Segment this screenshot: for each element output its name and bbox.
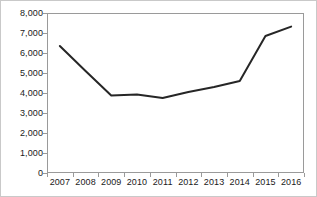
- x-axis-tick-label: 2008: [75, 177, 95, 187]
- x-axis-tick-mark: [98, 173, 99, 177]
- x-axis-tick-label: 2010: [127, 177, 147, 187]
- x-axis-tick-label: 2013: [204, 177, 224, 187]
- y-axis-tick-label: 5,000: [1, 69, 43, 78]
- data-series-layer: [47, 13, 304, 173]
- x-axis-tick-mark: [278, 173, 279, 177]
- x-axis-tick-mark: [73, 173, 74, 177]
- x-axis-tick-mark: [176, 173, 177, 177]
- y-axis-tick-label: 4,000: [1, 89, 43, 98]
- x-axis-tick-mark: [150, 173, 151, 177]
- y-axis-tick-label: 7,000: [1, 29, 43, 38]
- y-axis-tick-label: 2,000: [1, 129, 43, 138]
- x-axis-tick-label: 2012: [178, 177, 198, 187]
- x-axis-tick-label: 2016: [281, 177, 301, 187]
- x-axis-tick-mark: [124, 173, 125, 177]
- y-axis-tick-label: 6,000: [1, 49, 43, 58]
- x-axis-tick-mark: [304, 173, 305, 177]
- y-axis-tick-label: 0: [1, 169, 43, 178]
- line-chart-figure: 01,0002,0003,0004,0005,0006,0007,0008,00…: [0, 0, 317, 197]
- x-axis-tick-label: 2007: [50, 177, 70, 187]
- x-axis-tick-mark: [47, 173, 48, 177]
- series-line-path: [60, 27, 291, 98]
- x-axis-tick-label: 2014: [230, 177, 250, 187]
- x-axis-tick-labels: 2007200820092010201120122013201420152016: [47, 177, 304, 191]
- x-axis-tick-mark: [227, 173, 228, 177]
- x-axis-tick-label: 2015: [255, 177, 275, 187]
- x-axis-tick-mark: [253, 173, 254, 177]
- y-axis-tick-label: 8,000: [1, 9, 43, 18]
- x-axis-tick-label: 2011: [153, 177, 173, 187]
- x-axis-tick-mark: [201, 173, 202, 177]
- x-axis-tick-label: 2009: [101, 177, 121, 187]
- y-axis-tick-labels: 01,0002,0003,0004,0005,0006,0007,0008,00…: [1, 1, 43, 197]
- y-axis-tick-label: 1,000: [1, 149, 43, 158]
- y-axis-tick-label: 3,000: [1, 109, 43, 118]
